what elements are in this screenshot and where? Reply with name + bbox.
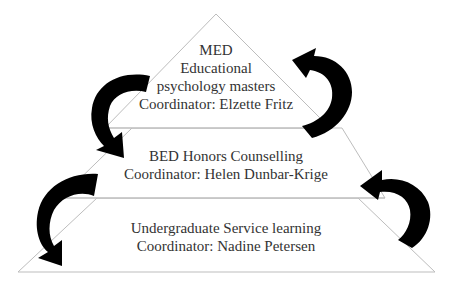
tier-bottom-program: Undergraduate Service learning bbox=[116, 219, 336, 237]
tier-top-program-name-1: Educational bbox=[116, 59, 316, 77]
tier-middle-coordinator: Coordinator: Helen Dunbar-Krige bbox=[116, 165, 336, 183]
tier-top-coordinator: Coordinator: Elzette Fritz bbox=[116, 95, 316, 113]
tier-top-program-code: MED bbox=[116, 41, 316, 59]
tier-top-program-name-2: psychology masters bbox=[116, 77, 316, 95]
tier-middle-label: BED Honors Counselling Coordinator: Hele… bbox=[116, 147, 336, 183]
tier-bottom-label: Undergraduate Service learning Coordinat… bbox=[116, 219, 336, 255]
tier-top-label: MED Educational psychology masters Coord… bbox=[116, 41, 316, 113]
tier-bottom-coordinator: Coordinator: Nadine Petersen bbox=[116, 237, 336, 255]
tier-middle-program: BED Honors Counselling bbox=[116, 147, 336, 165]
